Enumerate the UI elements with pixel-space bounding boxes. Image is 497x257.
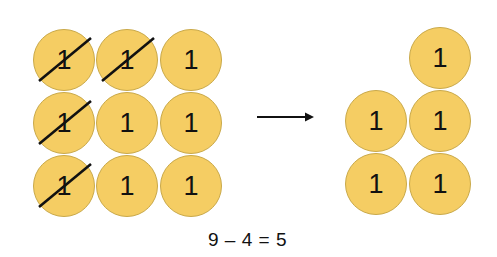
- counter-crossed: 1: [96, 29, 158, 91]
- counter-crossed: 1: [33, 155, 95, 217]
- counter: 1: [345, 153, 407, 215]
- cross-out-line-icon: [34, 30, 96, 92]
- cross-out-line-icon: [97, 30, 159, 92]
- counter-crossed: 1: [33, 92, 95, 154]
- counter: 1: [96, 155, 158, 217]
- cross-out-line-icon: [34, 93, 96, 155]
- counter-value: 1: [368, 171, 383, 198]
- counter: 1: [160, 29, 222, 91]
- counter: 1: [409, 90, 471, 152]
- counter: 1: [160, 92, 222, 154]
- equation-label: 9 – 4 = 5: [208, 229, 287, 251]
- right-arrow-icon: [257, 111, 315, 123]
- counter-crossed: 1: [33, 29, 95, 91]
- counter-value: 1: [432, 171, 447, 198]
- cross-out-line-icon: [34, 156, 96, 218]
- counter: 1: [409, 27, 471, 89]
- counter: 1: [409, 153, 471, 215]
- counter-value: 1: [183, 110, 198, 137]
- counter-value: 1: [432, 45, 447, 72]
- counter: 1: [96, 92, 158, 154]
- counter-value: 1: [119, 110, 134, 137]
- counter-value: 1: [368, 108, 383, 135]
- counter-value: 1: [183, 47, 198, 74]
- counter-value: 1: [119, 173, 134, 200]
- counter-value: 1: [432, 108, 447, 135]
- counter: 1: [160, 155, 222, 217]
- counter-value: 1: [183, 173, 198, 200]
- counter: 1: [345, 90, 407, 152]
